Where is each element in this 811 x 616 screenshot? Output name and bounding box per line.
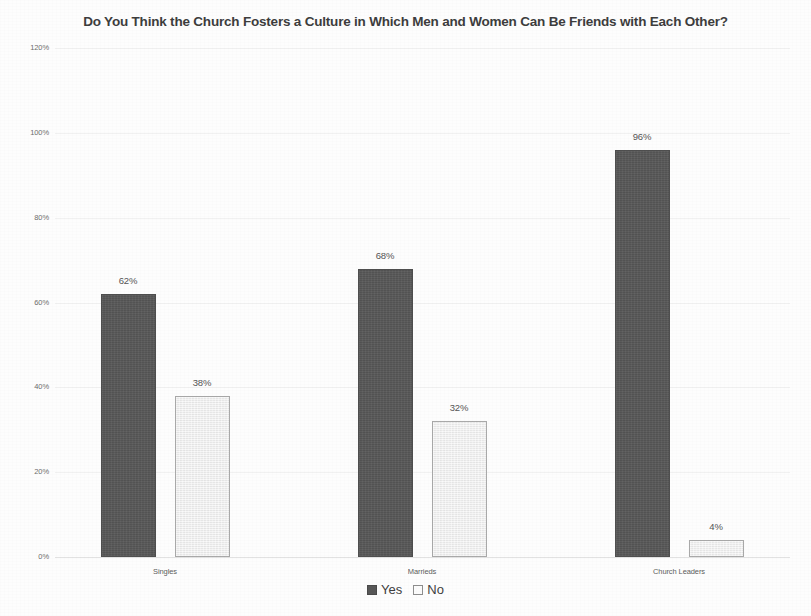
y-axis-tick-label: 20%	[1, 467, 49, 476]
y-axis-tick-label: 100%	[1, 128, 49, 137]
bar-value-label: 96%	[615, 131, 670, 142]
bar-church-leaders-yes	[615, 150, 670, 557]
y-axis-tick-label: 120%	[1, 43, 49, 52]
chart-title: Do You Think the Church Fosters a Cultur…	[0, 14, 811, 29]
y-axis-tick-label: 40%	[1, 382, 49, 391]
gridline-120pct	[55, 48, 790, 49]
bar-church-leaders-no	[689, 540, 744, 557]
chart-plot-area: 0%20%40%60%80%100%120%62%38%Singles68%32…	[55, 48, 790, 557]
gridline-100pct	[55, 133, 790, 134]
y-axis-tick-label: 0%	[1, 552, 49, 561]
dark-square-swatch-icon	[367, 585, 377, 595]
light-square-swatch-icon	[413, 585, 423, 595]
gridline-0pct	[55, 557, 790, 558]
bar-singles-yes	[101, 294, 156, 557]
gridline-80pct	[55, 218, 790, 219]
chart-legend: Yes No	[0, 583, 811, 596]
legend-label-yes: Yes	[381, 583, 402, 596]
gridline-40pct	[55, 387, 790, 388]
bar-value-label: 68%	[358, 250, 413, 261]
bar-value-label: 4%	[689, 521, 744, 532]
bar-value-label: 38%	[175, 377, 230, 388]
bar-value-label: 62%	[101, 275, 156, 286]
bar-singles-no	[175, 396, 230, 557]
x-axis-category-label: Marrieds	[352, 567, 492, 576]
y-axis-tick-label: 80%	[1, 213, 49, 222]
x-axis-category-label: Singles	[95, 567, 235, 576]
x-axis-category-label: Church Leaders	[609, 567, 749, 576]
gridline-20pct	[55, 472, 790, 473]
bar-marrieds-no	[432, 421, 487, 557]
legend-item-no[interactable]: No	[413, 583, 444, 596]
bar-value-label: 32%	[432, 402, 487, 413]
legend-label-no: No	[427, 583, 444, 596]
gridline-60pct	[55, 303, 790, 304]
y-axis-tick-label: 60%	[1, 298, 49, 307]
legend-item-yes[interactable]: Yes	[367, 583, 402, 596]
bar-marrieds-yes	[358, 269, 413, 557]
